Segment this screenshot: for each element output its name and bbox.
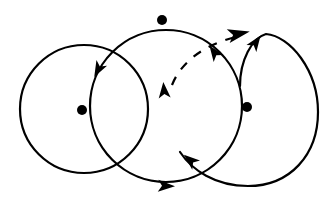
right-center-dot bbox=[242, 102, 252, 112]
arrow-lower-middle-icon bbox=[180, 150, 200, 169]
orbit-diagram bbox=[0, 0, 336, 202]
top-dot bbox=[157, 15, 167, 25]
arrow-dashed-end-icon bbox=[227, 25, 251, 43]
dashed-trajectory bbox=[172, 36, 240, 85]
arrow-middle-up-icon bbox=[157, 82, 170, 99]
left-center-dot bbox=[77, 105, 87, 115]
